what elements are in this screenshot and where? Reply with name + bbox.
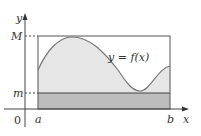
M-label: M xyxy=(10,30,23,43)
m-label: m xyxy=(13,87,23,100)
y-axis-label: y xyxy=(15,12,23,25)
lower-rectangle xyxy=(38,93,170,109)
x-axis-arrow-icon xyxy=(182,107,189,112)
integral-bounds-diagram: y x 0 M m a b y = f(x) xyxy=(0,0,201,136)
y-axis-arrow-icon xyxy=(23,13,28,20)
a-label: a xyxy=(35,113,42,126)
origin-label: 0 xyxy=(14,114,21,127)
x-axis-label: x xyxy=(183,113,190,126)
curve-label: y = f(x) xyxy=(107,51,149,64)
b-label: b xyxy=(167,113,174,126)
